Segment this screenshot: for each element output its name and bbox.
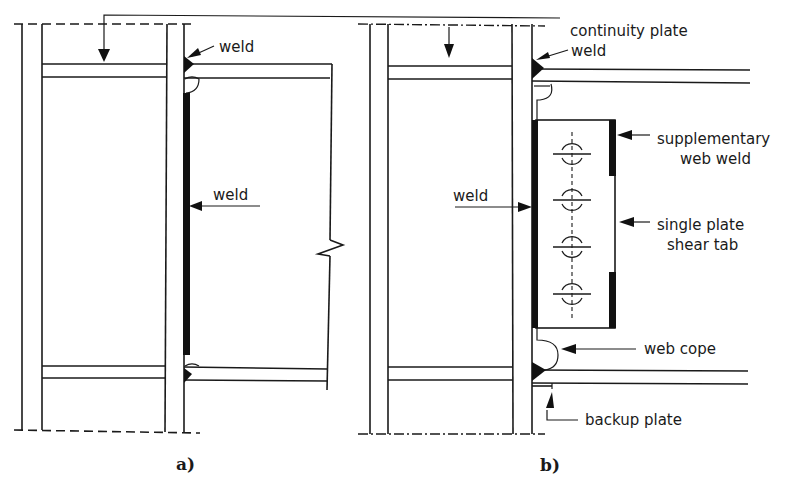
arrow-icon xyxy=(561,344,576,354)
arrow-icon xyxy=(617,130,632,140)
panel-a-continuity-plates xyxy=(42,64,167,378)
label-a-top-weld: weld xyxy=(219,38,254,56)
label-a-web-weld: weld xyxy=(213,186,248,204)
bottom-web-cope xyxy=(537,328,558,370)
arrow-icon xyxy=(619,217,634,227)
caption-a: a) xyxy=(176,454,195,474)
backup-plate xyxy=(532,383,578,420)
supplementary-weld-bottom xyxy=(609,272,616,328)
arrow-icon xyxy=(444,44,454,58)
supplementary-weld-top xyxy=(609,120,616,176)
label-single-plate: single plate xyxy=(657,216,744,234)
label-web-weld-supp: web weld xyxy=(680,150,751,168)
arrow-icon xyxy=(536,52,550,60)
top-flange-weld xyxy=(184,56,194,73)
label-backup-plate: backup plate xyxy=(585,411,682,429)
bolt-2 xyxy=(553,190,591,211)
label-b-top-weld: weld xyxy=(571,42,606,60)
web-weld-bar xyxy=(183,93,190,355)
label-b-web-weld: weld xyxy=(453,187,488,205)
arrow-icon xyxy=(518,202,532,212)
shear-tab-plate xyxy=(532,120,616,328)
arrow-icon xyxy=(187,48,201,58)
label-shear-tab: shear tab xyxy=(667,236,738,254)
label-continuity-plate: continuity plate xyxy=(570,22,688,40)
bottom-flange-weld xyxy=(532,362,546,381)
panel-a-column xyxy=(14,24,200,433)
web-weld-bar xyxy=(532,120,538,328)
top-web-cope xyxy=(534,84,552,120)
label-supplementary: supplementary xyxy=(657,130,770,148)
caption-b: b) xyxy=(540,455,560,475)
panel-a-welds xyxy=(183,56,199,383)
arrow-icon xyxy=(189,201,202,211)
panel-b-column xyxy=(358,24,545,434)
panel-a-beam xyxy=(184,64,343,390)
connection-diagram: weld weld a) xyxy=(0,0,795,491)
top-flange-weld xyxy=(532,58,544,79)
panel-b-continuity-plates xyxy=(388,66,513,380)
arrow-icon xyxy=(546,392,554,408)
panel-a: weld weld a) xyxy=(14,15,560,474)
label-web-cope: web cope xyxy=(644,340,716,358)
panel-b: continuity plate weld weld supplementary… xyxy=(358,22,770,475)
